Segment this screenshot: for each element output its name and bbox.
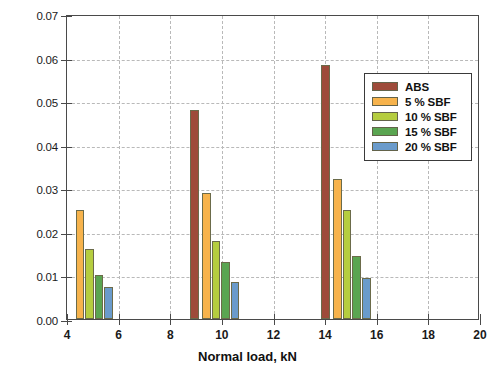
x-axis-tick (274, 319, 275, 325)
gridline-vertical (428, 16, 429, 319)
legend-swatch (372, 142, 398, 151)
gridline-horizontal (67, 190, 478, 191)
y-axis-tick-label: 0.01 (36, 271, 58, 283)
x-axis-tick-label: 18 (422, 328, 435, 342)
y-axis-tick-label: 0.04 (36, 141, 58, 153)
x-axis-tick (67, 319, 68, 325)
bar (231, 282, 240, 319)
gridline-horizontal (67, 277, 478, 278)
x-axis-tick-inner (170, 314, 171, 319)
bar (212, 241, 221, 319)
plot-area: 0.000.010.020.030.040.050.060.0746810121… (66, 15, 479, 320)
x-axis-tick (170, 319, 171, 325)
y-axis-tick-inner (67, 60, 72, 61)
x-axis-tick (377, 319, 378, 325)
legend-swatch (372, 82, 398, 91)
legend-label: 10 % SBF (405, 111, 457, 123)
x-axis-tick (119, 319, 120, 325)
x-axis-tick-inner (67, 314, 68, 319)
x-axis-tick-label: 8 (167, 328, 174, 342)
y-axis-tick-label: 0.07 (36, 10, 58, 22)
chart-legend: ABS5 % SBF10 % SBF15 % SBF20 % SBF (364, 73, 472, 161)
x-axis-tick (325, 319, 326, 325)
x-axis-tick-label: 10 (215, 328, 228, 342)
y-axis-tick-label: 0.00 (36, 315, 58, 327)
bar (362, 278, 371, 319)
x-axis-tick (480, 319, 481, 325)
bar (190, 110, 199, 319)
legend-item: 20 % SBF (372, 139, 465, 154)
bar (104, 287, 113, 319)
x-axis-tick-label: 20 (473, 328, 486, 342)
x-axis-tick-inner (377, 314, 378, 319)
x-axis-tick-inner (274, 314, 275, 319)
legend-swatch (372, 127, 398, 136)
bar (85, 249, 94, 319)
gridline-vertical (377, 16, 378, 319)
legend-swatch (372, 97, 398, 106)
x-axis-tick-label: 12 (267, 328, 280, 342)
x-axis-tick-inner (119, 314, 120, 319)
x-axis-tick-inner (480, 314, 481, 319)
legend-label: 5 % SBF (405, 96, 450, 108)
bar (352, 256, 361, 319)
bar (221, 262, 230, 319)
gridline-vertical (274, 16, 275, 319)
weight-loss-bar-chart: 0.000.010.020.030.040.050.060.0746810121… (0, 0, 495, 374)
bar (343, 210, 352, 319)
gridline-horizontal (67, 234, 478, 235)
gridline-vertical (170, 16, 171, 319)
y-axis-tick-inner (67, 277, 72, 278)
legend-label: ABS (405, 81, 429, 93)
gridline-vertical (119, 16, 120, 319)
legend-item: ABS (372, 79, 465, 94)
x-axis-tick-label: 16 (370, 328, 383, 342)
legend-swatch (372, 112, 398, 121)
bar (76, 210, 85, 319)
x-axis-title: Normal load, kN (0, 349, 495, 364)
bar (321, 65, 330, 319)
bar (333, 179, 342, 319)
y-axis-tick-label: 0.05 (36, 97, 58, 109)
y-axis-tick-inner (67, 16, 72, 17)
y-axis-tick-inner (67, 190, 72, 191)
gridline-horizontal (67, 60, 478, 61)
x-axis-tick (222, 319, 223, 325)
legend-label: 20 % SBF (405, 141, 457, 153)
y-axis-tick-label: 0.06 (36, 54, 58, 66)
x-axis-tick-label: 14 (318, 328, 331, 342)
legend-item: 5 % SBF (372, 94, 465, 109)
legend-label: 15 % SBF (405, 126, 457, 138)
legend-item: 15 % SBF (372, 124, 465, 139)
y-axis-tick-inner (67, 103, 72, 104)
y-axis-tick-label: 0.02 (36, 228, 58, 240)
y-axis-tick-inner (67, 147, 72, 148)
x-axis-tick (428, 319, 429, 325)
x-axis-tick-inner (428, 314, 429, 319)
legend-item: 10 % SBF (372, 109, 465, 124)
y-axis-tick-inner (67, 234, 72, 235)
x-axis-tick-label: 6 (115, 328, 122, 342)
y-axis-tick-label: 0.03 (36, 184, 58, 196)
x-axis-tick-label: 4 (64, 328, 71, 342)
bar (202, 193, 211, 319)
bar (95, 275, 104, 319)
